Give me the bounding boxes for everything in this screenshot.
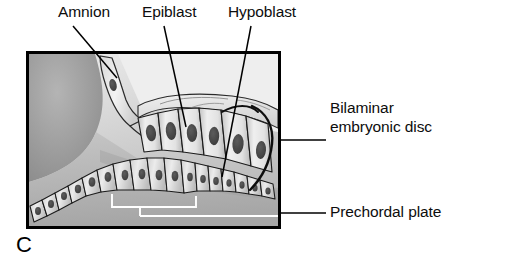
hypoblast-nucleus	[35, 207, 41, 215]
hypoblast-nucleus	[187, 173, 193, 181]
label-hypoblast: Hypoblast	[228, 3, 296, 21]
hypoblast-nucleus	[200, 175, 206, 183]
hypoblast-nucleus	[226, 179, 231, 187]
label-epiblast: Epiblast	[142, 3, 196, 21]
hypoblast-nucleus	[265, 187, 270, 194]
hypoblast-nucleus	[156, 170, 163, 180]
hypoblast-nucleus	[48, 200, 54, 208]
label-amnion: Amnion	[58, 3, 110, 21]
hypoblast-nucleus	[122, 170, 129, 180]
hypoblast-nucleus	[139, 169, 146, 179]
hypoblast-nucleus	[61, 192, 67, 200]
panel-letter: C	[16, 233, 32, 257]
figure-root: Amnion Epiblast Hypoblast Bilaminar embr…	[0, 0, 510, 267]
label-bilaminar-embryonic-disc: Bilaminar embryonic disc	[330, 98, 450, 136]
label-prechordal-plate: Prechordal plate	[330, 203, 441, 221]
hypoblast-nucleus	[89, 177, 96, 187]
hypoblast-nucleus	[75, 185, 81, 193]
hypoblast-nucleus	[172, 171, 179, 181]
illustration-panel	[28, 53, 280, 228]
hypoblast-nucleus	[239, 181, 244, 189]
hypoblast-nucleus	[213, 177, 219, 185]
hypoblast-nucleus	[105, 172, 112, 182]
